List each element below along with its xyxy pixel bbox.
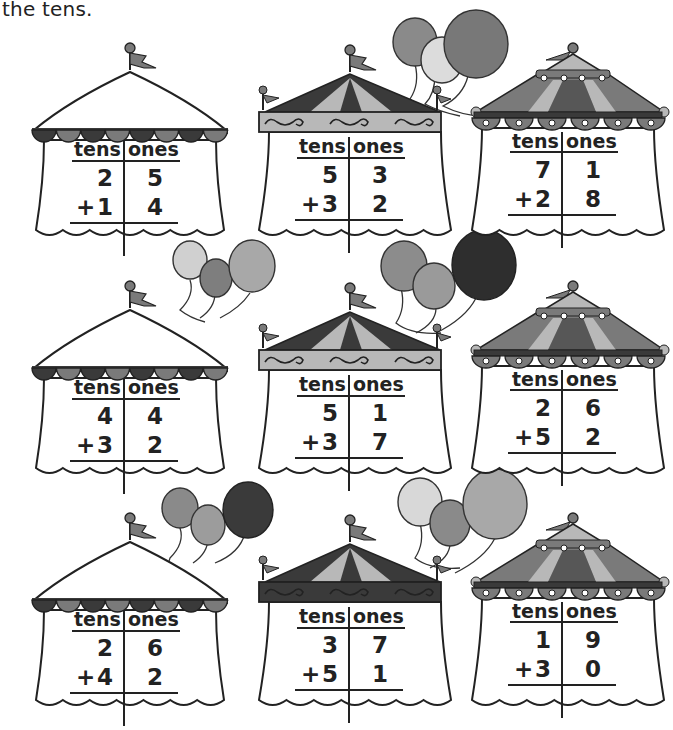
addition-problem: tens ones 2 6 + 4 2	[30, 510, 230, 730]
addition-problem: tens ones 7 1 + 2 8	[468, 40, 668, 280]
ones-header: ones	[128, 608, 179, 630]
top-tens-digit: 3	[315, 632, 345, 658]
bottom-ones-digit: 0	[578, 656, 608, 682]
top-ones-digit: 9	[578, 627, 608, 653]
tent-problem-8: tens ones 3 7 + 5 1	[255, 510, 455, 730]
ones-header: ones	[353, 135, 404, 157]
top-ones-digit: 1	[365, 400, 395, 426]
addition-problem: tens ones 5 3 + 3 2	[255, 40, 455, 280]
tens-header: tens	[512, 600, 558, 622]
bottom-ones-digit: 2	[578, 424, 608, 450]
top-ones-digit: 5	[140, 165, 170, 191]
addition-problem: tens ones 5 1 + 3 7	[255, 278, 455, 518]
tens-header: tens	[74, 608, 120, 630]
tens-header: tens	[512, 368, 558, 390]
bottom-tens-digit: 5	[315, 661, 345, 687]
top-tens-digit: 2	[90, 635, 120, 661]
bottom-tens-digit: 3	[528, 656, 558, 682]
top-ones-digit: 3	[365, 162, 395, 188]
tent-problem-7: tens ones 2 6 + 4 2	[30, 510, 230, 730]
addition-problem: tens ones 1 9 + 3 0	[468, 510, 668, 730]
tent-problem-5: tens ones 5 1 + 3 7	[255, 278, 455, 518]
tent-problem-1: tens ones 2 5 + 1 4	[30, 40, 230, 280]
top-ones-digit: 7	[365, 632, 395, 658]
top-tens-digit: 4	[90, 403, 120, 429]
bottom-ones-digit: 1	[365, 661, 395, 687]
tent-problem-6: tens ones 2 6 + 5 2	[468, 278, 668, 518]
top-ones-digit: 1	[578, 157, 608, 183]
addition-problem: tens ones 2 5 + 1 4	[30, 40, 230, 280]
ones-header: ones	[566, 368, 617, 390]
addition-problem: tens ones 2 6 + 5 2	[468, 278, 668, 518]
bottom-tens-digit: 2	[528, 186, 558, 212]
tens-header: tens	[299, 605, 345, 627]
tent-problem-3: tens ones 7 1 + 2 8	[468, 40, 668, 280]
ones-header: ones	[128, 376, 179, 398]
bottom-tens-digit: 3	[90, 432, 120, 458]
top-ones-digit: 6	[578, 395, 608, 421]
bottom-ones-digit: 2	[365, 191, 395, 217]
top-tens-digit: 5	[315, 400, 345, 426]
bottom-ones-digit: 2	[140, 432, 170, 458]
ones-header: ones	[128, 138, 179, 160]
tent-problem-2: tens ones 5 3 + 3 2	[255, 40, 455, 280]
ones-header: ones	[353, 605, 404, 627]
bottom-tens-digit: 4	[90, 664, 120, 690]
top-tens-digit: 2	[90, 165, 120, 191]
ones-header: ones	[566, 130, 617, 152]
ones-header: ones	[353, 373, 404, 395]
top-tens-digit: 5	[315, 162, 345, 188]
bottom-ones-digit: 7	[365, 429, 395, 455]
ones-header: ones	[566, 600, 617, 622]
addition-problem: tens ones 3 7 + 5 1	[255, 510, 455, 730]
top-ones-digit: 4	[140, 403, 170, 429]
tent-problem-4: tens ones 4 4 + 3 2	[30, 278, 230, 518]
bottom-ones-digit: 8	[578, 186, 608, 212]
tens-header: tens	[74, 138, 120, 160]
bottom-tens-digit: 3	[315, 191, 345, 217]
tens-header: tens	[299, 135, 345, 157]
bottom-ones-digit: 2	[140, 664, 170, 690]
top-tens-digit: 2	[528, 395, 558, 421]
bottom-tens-digit: 1	[90, 194, 120, 220]
tens-header: tens	[74, 376, 120, 398]
bottom-tens-digit: 3	[315, 429, 345, 455]
tens-header: tens	[512, 130, 558, 152]
top-ones-digit: 6	[140, 635, 170, 661]
top-tens-digit: 7	[528, 157, 558, 183]
addition-problem: tens ones 4 4 + 3 2	[30, 278, 230, 518]
bottom-tens-digit: 5	[528, 424, 558, 450]
instruction-text: the tens.	[2, 0, 93, 21]
tent-problem-9: tens ones 1 9 + 3 0	[468, 510, 668, 730]
tens-header: tens	[299, 373, 345, 395]
bottom-ones-digit: 4	[140, 194, 170, 220]
top-tens-digit: 1	[528, 627, 558, 653]
